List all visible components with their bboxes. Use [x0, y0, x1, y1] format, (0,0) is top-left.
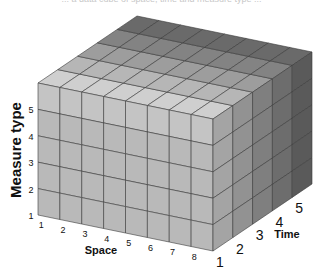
front-cell — [126, 101, 148, 132]
front-cell — [169, 110, 191, 141]
space-tick: 3 — [82, 229, 87, 239]
front-cell — [82, 92, 104, 123]
space-tick: 1 — [39, 220, 44, 230]
front-cell — [60, 193, 82, 224]
front-cell — [60, 167, 82, 198]
front-cell — [147, 211, 169, 242]
measure-type-axis-label: Measure type — [7, 102, 24, 198]
front-cell — [38, 162, 60, 193]
front-cell — [82, 198, 104, 229]
front-cell — [126, 154, 148, 185]
front-cell — [147, 185, 169, 216]
front-cell — [60, 88, 82, 119]
time-tick: 5 — [295, 200, 303, 216]
measure-tick: 3 — [28, 158, 33, 168]
data-cube-diagram: 123451234567812345 Measure type Space Ti… — [0, 0, 323, 273]
front-cell — [82, 171, 104, 202]
space-tick: 7 — [170, 247, 175, 257]
measure-tick: 1 — [28, 211, 33, 221]
cube-faces — [38, 16, 312, 251]
front-cell — [38, 83, 60, 114]
space-tick: 8 — [192, 252, 197, 262]
front-cell — [147, 106, 169, 137]
front-cell — [104, 176, 126, 207]
space-tick: 4 — [104, 234, 109, 244]
front-cell — [60, 140, 82, 171]
front-cell — [126, 180, 148, 211]
front-cell — [169, 189, 191, 220]
front-cell — [191, 194, 213, 225]
front-cell — [104, 123, 126, 154]
front-cell — [191, 167, 213, 198]
space-tick: 5 — [126, 238, 131, 248]
space-axis-label: Space — [85, 244, 117, 256]
front-cell — [126, 127, 148, 158]
time-axis-label: Time — [274, 228, 299, 240]
time-tick: 1 — [216, 254, 224, 270]
front-cell — [126, 207, 148, 238]
space-tick: 6 — [148, 243, 153, 253]
front-cell — [82, 118, 104, 149]
measure-tick: 2 — [28, 185, 33, 195]
front-cell — [38, 189, 60, 220]
front-cell — [191, 220, 213, 251]
front-cell — [104, 149, 126, 180]
measure-tick: 4 — [28, 132, 33, 142]
front-cell — [147, 158, 169, 189]
measure-tick: 5 — [28, 105, 33, 115]
front-cell — [169, 136, 191, 167]
time-tick: 2 — [236, 241, 244, 257]
front-cell — [38, 136, 60, 167]
front-cell — [82, 145, 104, 176]
time-tick: 3 — [256, 227, 264, 243]
space-tick: 2 — [61, 225, 66, 235]
front-cell — [104, 202, 126, 233]
front-cell — [60, 114, 82, 145]
front-cell — [104, 97, 126, 128]
front-cell — [38, 109, 60, 140]
front-cell — [191, 115, 213, 146]
front-cell — [191, 141, 213, 172]
front-cell — [169, 163, 191, 194]
front-cell — [147, 132, 169, 163]
front-cell — [169, 216, 191, 247]
